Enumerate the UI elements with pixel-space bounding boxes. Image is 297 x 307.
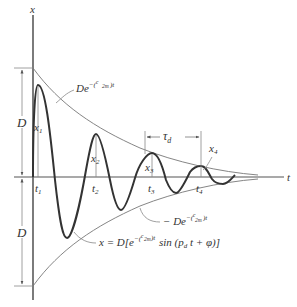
response-sin-term: sin (pd t + φ)] — [159, 236, 220, 250]
lower-envelope-exp-suffix: )t — [202, 214, 208, 222]
lower-D-label: D — [16, 225, 27, 240]
x-axis-label: x — [29, 3, 35, 15]
t-axis-label: t — [287, 171, 291, 183]
lower-envelope-frac-den: 2m — [195, 217, 202, 223]
lower-envelope-label: − De−(c — [163, 212, 196, 227]
t1-label: t1 — [35, 182, 42, 196]
x2-label: x2 — [90, 152, 100, 166]
upper-envelope-frac-den: 2m — [102, 83, 109, 89]
lower-D-dimension: D — [14, 179, 33, 286]
lower-envelope-curve — [33, 179, 258, 286]
t2-label: t2 — [92, 182, 99, 196]
upper-D-dimension: D — [14, 68, 33, 175]
upper-envelope-curve — [33, 68, 258, 175]
x1-label: x1 — [33, 121, 42, 135]
upper-envelope-label: De−(c — [75, 79, 99, 94]
x3-label: x3 — [144, 161, 154, 175]
response-frac-den: 2m — [144, 236, 151, 242]
lower-envelope-leader — [140, 208, 160, 222]
period-tau-d-dimension: τd — [147, 129, 199, 145]
peak-markers — [38, 86, 201, 177]
response-equation: x = D[e−(c — [98, 233, 144, 248]
t3-label: t3 — [148, 182, 155, 196]
tau-d-label: τd — [163, 129, 172, 145]
upper-D-label: D — [16, 115, 27, 130]
damped-vibration-diagram: x t D D τd x1 x2 x3 x4 t1 t2 t3 — [0, 0, 297, 307]
t4-label: t4 — [196, 182, 203, 196]
upper-envelope-exp-suffix: )t — [109, 81, 115, 89]
response-exp-suffix: )t — [150, 234, 156, 242]
x4-label: x4 — [208, 142, 218, 156]
